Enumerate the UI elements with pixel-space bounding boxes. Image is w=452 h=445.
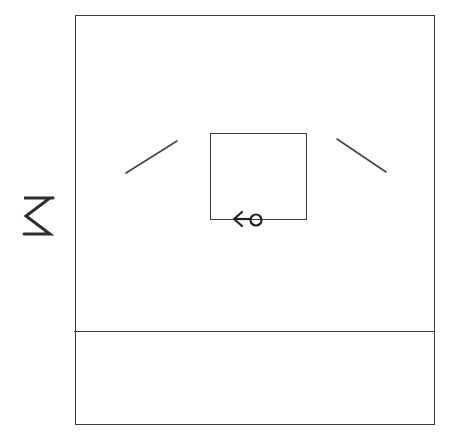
- arrow-left-with-circle-icon[interactable]: [0, 0, 452, 445]
- wireframe-sketch: M: [0, 0, 452, 445]
